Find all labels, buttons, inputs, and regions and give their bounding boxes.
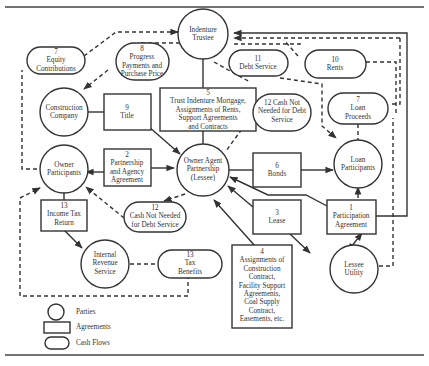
label-agreement-1: 1 Participation Agreement bbox=[333, 204, 370, 229]
label-line: 9 bbox=[120, 104, 133, 112]
label-line: Bonds bbox=[268, 170, 286, 178]
label-lessee-utility: Lessee Utility bbox=[344, 261, 364, 278]
label-line: Coal Supply bbox=[239, 299, 286, 307]
label-line: Rents bbox=[327, 64, 343, 72]
label-cashflow-11: 11 Debt Service bbox=[239, 55, 276, 72]
label-line: 12 Cash Not bbox=[258, 99, 306, 107]
label-line: Equity bbox=[36, 57, 76, 65]
label-line: 4 bbox=[239, 248, 286, 256]
legend-agreement-icon bbox=[44, 322, 70, 333]
label-line: Payments and bbox=[121, 62, 164, 70]
label-line: Contract, bbox=[239, 273, 286, 281]
label-line: 5 bbox=[170, 89, 246, 97]
legend-cash-flows-label: Cash Flows bbox=[76, 339, 110, 347]
legend-agreements-label: Agreements bbox=[76, 323, 111, 331]
label-line: 10 bbox=[327, 56, 343, 64]
label-agreement-5: 5 Trust Indenture Mortgage, Assignments … bbox=[170, 89, 246, 131]
label-line: Tax bbox=[178, 260, 202, 268]
label-line: Partnership bbox=[110, 160, 144, 168]
legend-parties-label: Parties bbox=[76, 308, 96, 316]
label-agreement-2: 2 Partnership and Agency Agreement bbox=[110, 151, 144, 185]
label-line: and Contracts bbox=[170, 123, 246, 131]
label-line: Agreement bbox=[110, 176, 144, 184]
label-agreement-6: 6 Bonds bbox=[268, 162, 286, 179]
label-line: (Lessee) bbox=[184, 174, 223, 182]
label-line: 7 bbox=[345, 96, 371, 104]
label-agreement-4: 4 Assignments of Construction Contract, … bbox=[239, 248, 286, 324]
label-line: Participation bbox=[333, 213, 370, 221]
label-cashflow-7-equity: 7 Equity Contributions bbox=[36, 48, 76, 73]
label-cashflow-10: 10 Rents bbox=[327, 56, 343, 73]
label-line: Partnership bbox=[184, 166, 223, 174]
label-line: Purchase Price bbox=[121, 70, 164, 78]
label-line: Income Tax bbox=[47, 211, 81, 219]
label-agreement-9: 9 Title bbox=[120, 104, 133, 121]
label-line: Participants bbox=[47, 169, 81, 177]
label-agreement-3: 3 Lease bbox=[269, 209, 286, 226]
label-line: Service bbox=[258, 116, 306, 124]
label-loan-participants: Loan Participants bbox=[341, 156, 375, 173]
label-irs: Internal Revenue Service bbox=[92, 251, 117, 276]
legend-cashflow-icon bbox=[45, 337, 69, 349]
label-line: 1 bbox=[333, 204, 370, 212]
label-line: Assignments of Rents, bbox=[170, 106, 246, 114]
label-line: 13 bbox=[47, 202, 81, 210]
label-line: Benefits bbox=[178, 268, 202, 276]
label-line: Revenue bbox=[92, 260, 117, 268]
label-line: Loan bbox=[345, 105, 371, 113]
label-line: Company bbox=[45, 112, 82, 120]
label-line: Construction bbox=[45, 104, 82, 112]
label-line: Lessee bbox=[344, 261, 364, 269]
label-owner-participants: Owner Participants bbox=[47, 161, 81, 178]
label-line: Agreement bbox=[333, 221, 370, 229]
label-line: Indenture bbox=[189, 26, 217, 34]
label-line: Service bbox=[92, 268, 117, 276]
label-line: 13 bbox=[178, 251, 202, 259]
label-indenture-trustee: Indenture Trustee bbox=[189, 26, 217, 43]
label-line: 8 bbox=[121, 45, 164, 53]
label-line: Agreements, bbox=[239, 290, 286, 298]
label-line: Proceeds bbox=[345, 113, 371, 121]
label-line: Debt Service bbox=[239, 63, 276, 71]
label-agreement-13: 13 Income Tax Return bbox=[47, 202, 81, 227]
label-line: 12 bbox=[130, 204, 181, 212]
label-line: Participants bbox=[341, 164, 375, 172]
label-construction-company: Construction Company bbox=[45, 104, 82, 121]
label-cashflow-13: 13 Tax Benefits bbox=[178, 251, 202, 276]
legend-party-icon bbox=[48, 304, 64, 320]
label-cashflow-7-loan: 7 Loan Proceeds bbox=[345, 96, 371, 121]
label-line: Easements, etc. bbox=[239, 315, 286, 323]
label-cashflow-12-bottom: 12 Cash Not Needed for Debt Service bbox=[130, 204, 181, 229]
label-line: 3 bbox=[269, 209, 286, 217]
label-line: 2 bbox=[110, 151, 144, 159]
label-line: Contract, bbox=[239, 307, 286, 315]
label-line: Trust Indenture Mortgage, bbox=[170, 97, 246, 105]
label-line: Construction bbox=[239, 265, 286, 273]
label-line: Assignments of bbox=[239, 257, 286, 265]
label-line: for Debt Service bbox=[130, 221, 181, 229]
label-cashflow-12-top: 12 Cash Not Needed for Debt Service bbox=[258, 99, 306, 124]
label-line: and Agency bbox=[110, 168, 144, 176]
label-line: Title bbox=[120, 112, 133, 120]
label-line: 11 bbox=[239, 55, 276, 63]
label-line: Owner Agent bbox=[184, 157, 223, 165]
label-line: Loan bbox=[341, 156, 375, 164]
label-line: Trustee bbox=[189, 34, 217, 42]
label-line: Utility bbox=[344, 269, 364, 277]
label-line: 7 bbox=[36, 48, 76, 56]
label-line: Facility Support bbox=[239, 282, 286, 290]
label-line: Needed for Debt bbox=[258, 108, 306, 116]
label-line: Cash Not Needed bbox=[130, 213, 181, 221]
label-line: Return bbox=[47, 219, 81, 227]
label-line: Lease bbox=[269, 217, 286, 225]
label-line: 6 bbox=[268, 162, 286, 170]
label-owner-agent: Owner Agent Partnership (Lessee) bbox=[184, 157, 223, 182]
label-line: Owner bbox=[47, 161, 81, 169]
label-line: Contributions bbox=[36, 65, 76, 73]
label-line: Support Agreements bbox=[170, 114, 246, 122]
label-cashflow-8: 8 Progress Payments and Purchase Price bbox=[121, 45, 164, 79]
label-line: Internal bbox=[92, 251, 117, 259]
label-line: Progress bbox=[121, 54, 164, 62]
